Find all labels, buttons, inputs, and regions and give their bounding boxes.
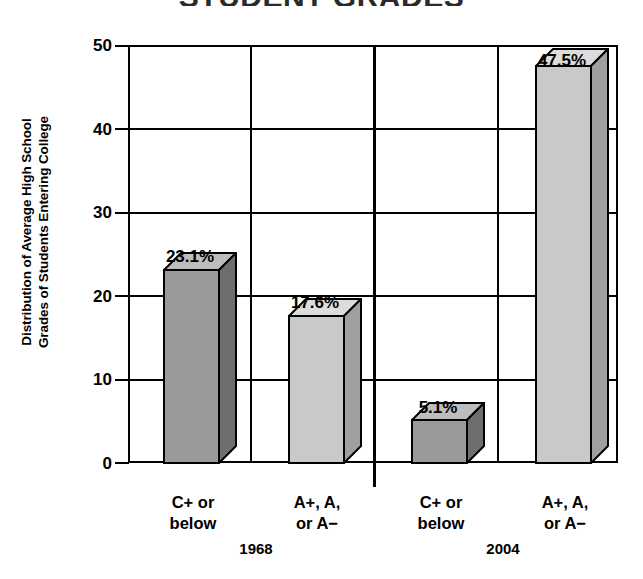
y-tick-label-40: 40 xyxy=(66,121,112,138)
x-category-label-3: C+ or below xyxy=(386,492,496,534)
x-category-label-4: A+, A, or A− xyxy=(510,492,620,534)
y-tick-label-20: 20 xyxy=(66,288,112,305)
bar-2004-a-plus-a-or-a-minus-shape xyxy=(535,45,625,463)
x-category-label-2: A+, A, or A− xyxy=(262,492,372,534)
x-category-label-4-line-1: A+, A, xyxy=(510,492,620,513)
group-label-1968: 1968 xyxy=(196,541,316,557)
x-category-label-3-line-2: below xyxy=(386,513,496,534)
data-label-17-6: 17.6% xyxy=(265,294,365,312)
data-label-23-1: 23.1% xyxy=(140,248,240,266)
chart-title: STUDENT GRADES xyxy=(0,0,643,6)
bar-1968-a-plus-a-or-a-minus xyxy=(288,45,378,463)
x-category-label-1-line-1: C+ or xyxy=(138,492,248,513)
data-label-47-5: 47.5% xyxy=(512,52,612,70)
y-axis-label-line-2: Grades of Students Entering College xyxy=(35,22,52,442)
x-category-label-2-line-1: A+, A, xyxy=(262,492,372,513)
y-axis-label: Distribution of Average High School Grad… xyxy=(18,22,58,442)
data-label-5-1: 5.1% xyxy=(388,399,488,417)
y-tick-label-10: 10 xyxy=(66,371,112,388)
x-category-label-2-line-2: or A− xyxy=(262,513,372,534)
y-axis-label-line-1: Distribution of Average High School xyxy=(18,22,35,442)
bar-chart-figure: STUDENT GRADES Distribution of Average H… xyxy=(0,0,643,579)
bar-1968-a-plus-a-or-a-minus-shape xyxy=(288,45,378,463)
y-tick-mark-50 xyxy=(115,45,129,47)
y-tick-mark-20 xyxy=(115,295,129,297)
x-category-label-1: C+ or below xyxy=(138,492,248,534)
x-category-label-1-line-2: below xyxy=(138,513,248,534)
y-tick-label-30: 30 xyxy=(66,204,112,221)
bar-2004-a-plus-a-or-a-minus xyxy=(535,45,625,463)
y-tick-label-0: 0 xyxy=(66,455,112,472)
x-category-label-4-line-2: or A− xyxy=(510,513,620,534)
group-label-2004: 2004 xyxy=(443,541,563,557)
y-tick-mark-10 xyxy=(115,379,129,381)
x-category-label-3-line-1: C+ or xyxy=(386,492,496,513)
y-tick-mark-30 xyxy=(115,212,129,214)
y-tick-mark-40 xyxy=(115,128,129,130)
y-tick-mark-0 xyxy=(115,462,129,464)
y-tick-label-50: 50 xyxy=(66,37,112,54)
